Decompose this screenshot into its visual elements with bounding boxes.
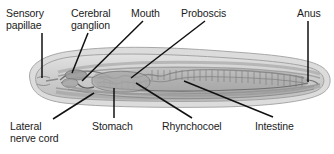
label-intestine: Intestine [255, 121, 294, 133]
label-sensory-papillae: Sensory papillae [6, 8, 44, 31]
label-mouth: Mouth [131, 8, 160, 20]
label-stomach: Stomach [92, 121, 133, 133]
stomach-shape [92, 71, 150, 92]
label-rhynchocoel: Rhynchocoel [162, 121, 222, 133]
label-anus: Anus [297, 8, 321, 20]
anatomy-diagram: Sensory papillae Cerebral ganglion Mouth… [0, 0, 334, 154]
label-cerebral-ganglion: Cerebral ganglion [71, 8, 110, 31]
label-proboscis: Proboscis [181, 8, 226, 20]
label-lateral-nerve-cord: Lateral nerve cord [10, 121, 59, 144]
